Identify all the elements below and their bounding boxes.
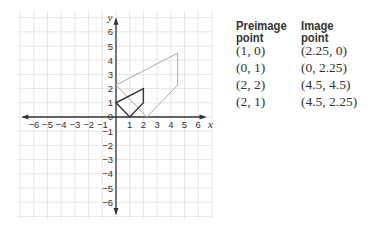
x-tick-label: 2 <box>141 119 146 130</box>
x-axis-label: x <box>207 118 213 130</box>
x-tick-label: −3 <box>69 119 80 130</box>
y-tick-label: 1 <box>108 97 113 108</box>
image-header: Image point <box>301 20 334 44</box>
y-axis-up-arrow-icon <box>114 18 119 25</box>
tick-labels: −6−5−4−3−2−1123456654321−1−2−3−4−5−60xy <box>28 11 213 208</box>
x-tick-label: −5 <box>42 119 53 130</box>
x-tick-label: 6 <box>196 119 201 130</box>
preimage-header: Preimage point <box>236 20 287 44</box>
image-cell: (2.25, 0) <box>301 43 347 59</box>
image-cell: (4.5, 2.25) <box>301 94 357 110</box>
preimage-cell: (2, 1) <box>236 94 265 110</box>
origin-label: 0 <box>108 111 113 122</box>
axes <box>21 18 206 215</box>
preimage-cell: (2, 2) <box>236 77 265 93</box>
y-axis-label: y <box>107 11 113 23</box>
preimage-cell: (0, 1) <box>236 60 265 76</box>
y-tick-label: 5 <box>108 41 113 52</box>
x-tick-label: −2 <box>83 119 94 130</box>
y-tick-label: 4 <box>108 55 113 66</box>
x-tick-label: 3 <box>154 119 159 130</box>
x-tick-label: −6 <box>28 119 39 130</box>
x-tick-label: 1 <box>127 119 132 130</box>
y-tick-label: 2 <box>108 83 113 94</box>
y-tick-label: −1 <box>102 126 113 137</box>
coordinate-plane: −6−5−4−3−2−1123456654321−1−2−3−4−5−60xy <box>0 0 230 230</box>
x-tick-label: −4 <box>56 119 67 130</box>
y-tick-label: 3 <box>108 69 113 80</box>
preimage-cell: (1, 0) <box>236 43 265 59</box>
y-tick-label: −4 <box>102 168 113 179</box>
image-cell: (4.5, 4.5) <box>301 77 351 93</box>
y-tick-label: −5 <box>102 183 113 194</box>
x-tick-label: 4 <box>168 119 173 130</box>
image-cell: (0, 2.25) <box>301 60 347 76</box>
y-tick-label: −2 <box>102 140 113 151</box>
y-tick-label: −3 <box>102 154 113 165</box>
y-axis-down-arrow-icon <box>114 208 119 215</box>
x-axis-left-arrow-icon <box>21 115 28 120</box>
y-tick-label: 6 <box>108 26 113 37</box>
x-tick-label: 5 <box>182 119 187 130</box>
image-polygon <box>116 53 178 117</box>
y-tick-label: −6 <box>102 197 113 208</box>
grid <box>17 11 212 220</box>
